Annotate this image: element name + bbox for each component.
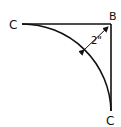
label-dimension: 2"	[91, 35, 102, 46]
label-bottom-c: C	[106, 114, 114, 127]
quarter-arc-diagram: C B C 2"	[0, 0, 121, 127]
label-left-c: C	[9, 18, 17, 32]
label-corner-b: B	[109, 10, 117, 23]
